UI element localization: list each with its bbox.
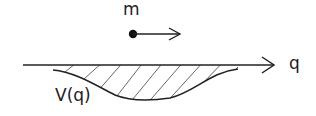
mass-label: m (123, 1, 140, 18)
potential-well-diagram (0, 0, 316, 116)
q-axis-label: q (289, 55, 300, 72)
potential-label: V(q) (55, 87, 91, 104)
